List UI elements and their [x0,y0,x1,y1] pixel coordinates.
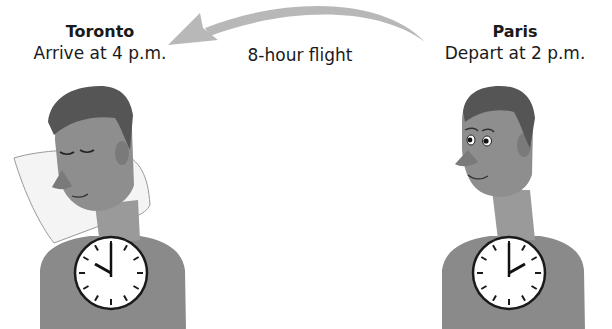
flight-arrow-icon [168,6,425,45]
destination-label: Toronto Arrive at 4 p.m. [10,22,190,64]
arrival-time: Arrive at 4 p.m. [10,42,190,64]
origin-city: Paris [425,22,605,42]
clock-icon-paris [473,237,545,309]
destination-city: Toronto [10,22,190,42]
origin-label: Paris Depart at 2 p.m. [425,22,605,64]
flight-duration-label: 8-hour flight [225,44,375,66]
clock-icon-toronto [75,237,147,309]
departure-time: Depart at 2 p.m. [425,42,605,64]
